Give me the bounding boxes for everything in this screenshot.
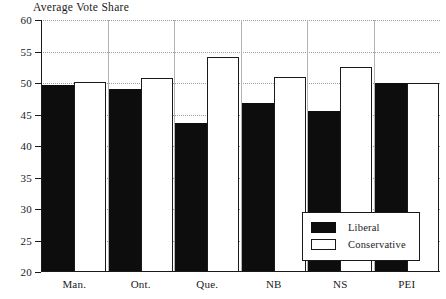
y-tick-label: 40 — [21, 140, 32, 152]
bar-liberal — [42, 85, 74, 272]
legend-item-liberal: Liberal — [311, 219, 411, 236]
legend-label-conservative: Conservative — [348, 239, 406, 250]
y-tick-label: 60 — [21, 14, 32, 26]
legend-swatch-conservative — [311, 239, 336, 250]
y-tick-label: 20 — [21, 266, 32, 278]
bar-conservative — [141, 78, 173, 272]
legend-item-conservative: Conservative — [311, 236, 411, 253]
y-tick-label: 45 — [21, 109, 32, 121]
x-axis-label: Que. — [196, 278, 218, 290]
x-axis-spine — [41, 271, 440, 272]
bar-liberal — [242, 103, 274, 272]
bar-conservative — [74, 82, 106, 272]
bar-conservative — [207, 57, 239, 272]
y-tick-label: 30 — [21, 203, 32, 215]
bar-conservative — [274, 77, 306, 272]
legend-label-liberal: Liberal — [348, 222, 380, 233]
chart-legend: Liberal Conservative — [302, 212, 420, 261]
y-tick-label: 25 — [21, 235, 32, 247]
x-axis-label: NS — [333, 278, 347, 290]
y-axis-spine — [41, 20, 42, 272]
chart-figure: Average Vote Share 202530354045505560 Ma… — [0, 0, 446, 299]
bar-liberal — [175, 123, 207, 272]
chart-title: Average Vote Share — [33, 1, 129, 13]
x-axis-label: Ont. — [131, 278, 151, 290]
x-axis-label: PEI — [398, 278, 415, 290]
y-tick-label: 55 — [21, 46, 32, 58]
y-tick-label: 50 — [21, 77, 32, 89]
y-tick-label: 35 — [21, 172, 32, 184]
x-axis-label: Man. — [62, 278, 86, 290]
legend-swatch-liberal — [311, 222, 336, 233]
bar-liberal — [109, 89, 141, 272]
y-tick-mark — [35, 272, 41, 273]
x-axis-label: NB — [266, 278, 282, 290]
